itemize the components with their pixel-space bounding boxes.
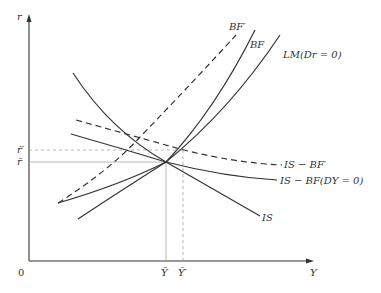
is-bf-prime-label: IS − BF′ bbox=[283, 159, 327, 170]
axes bbox=[27, 14, 315, 264]
guide-lines bbox=[29, 150, 183, 261]
is-lm-bf-diagram: r Y 0 r̄′ r̄ Ȳ Ȳ′ BF′ BF LM(Dr = 0) IS −… bbox=[0, 0, 381, 293]
is-bf-prime-curve bbox=[76, 120, 282, 165]
y-bar-prime-label: Ȳ′ bbox=[178, 267, 188, 278]
bf-prime-curve bbox=[58, 35, 236, 203]
curves bbox=[58, 30, 282, 219]
r-bar-prime-label: r̄′ bbox=[17, 144, 25, 155]
bf-prime-label: BF′ bbox=[228, 21, 246, 32]
labels: r Y 0 r̄′ r̄ Ȳ Ȳ′ BF′ BF LM(Dr = 0) IS −… bbox=[17, 11, 363, 278]
is-bf-label: IS − BF(DY = 0) bbox=[279, 175, 363, 186]
bf-curve bbox=[58, 30, 255, 203]
x-axis-arrow-icon bbox=[306, 259, 314, 264]
y-axis-label: r bbox=[17, 11, 23, 22]
lm-label: LM(Dr = 0) bbox=[282, 49, 342, 60]
y-axis-arrow-icon bbox=[27, 14, 32, 22]
bf-label: BF bbox=[249, 39, 265, 50]
x-axis-label: Y bbox=[310, 267, 318, 278]
lm-curve bbox=[78, 35, 280, 219]
origin-label: 0 bbox=[18, 267, 24, 278]
is-curve bbox=[73, 73, 260, 216]
is-label: IS bbox=[261, 212, 273, 223]
is-bf-curve bbox=[71, 134, 277, 180]
r-bar-label: r̄ bbox=[17, 156, 23, 167]
y-bar-label: Ȳ bbox=[161, 267, 169, 278]
